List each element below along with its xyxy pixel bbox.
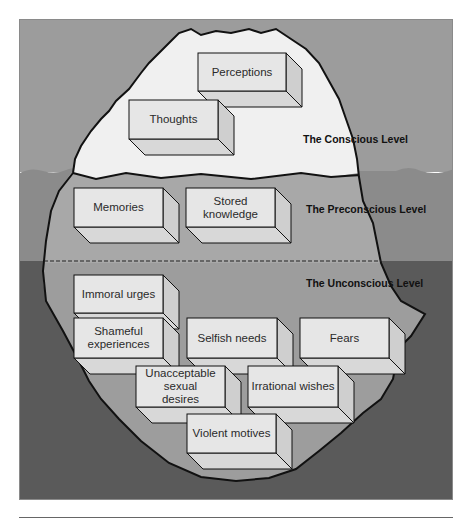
box-label: Memories [74,188,163,227]
box-label: Perceptions [198,53,286,91]
box-violent-motives: Violent motives [187,414,292,469]
box-label: Thoughts [129,100,218,139]
level-label-1: The Preconscious Level [306,203,426,215]
level-label-2: The Unconscious Level [306,277,423,289]
bottom-rule [19,517,453,518]
box-label: Immoral urges [74,275,163,313]
box-label: Fears [300,318,389,358]
box-label: Selfish needs [187,318,277,358]
box-thoughts: Thoughts [129,100,234,155]
box-memories: Memories [74,188,179,243]
level-label-0: The Conscious Level [303,133,408,145]
box-stored-knowledge: Storedknowledge [186,188,291,243]
box-perceptions: Perceptions [198,53,302,107]
box-label: Shamefulexperiences [74,318,163,358]
box-label: Irrational wishes [248,366,338,407]
box-label: Storedknowledge [186,188,275,227]
box-label: Unacceptablesexualdesires [136,366,225,407]
box-label: Violent motives [187,414,276,453]
